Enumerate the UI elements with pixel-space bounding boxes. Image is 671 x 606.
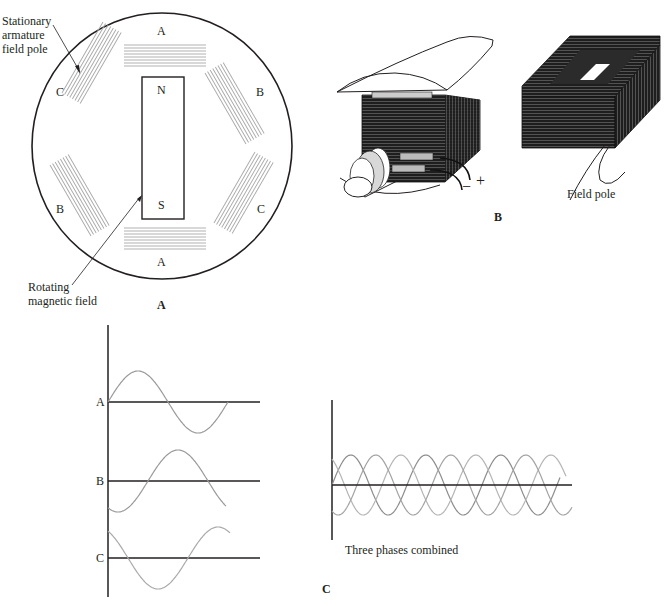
callout-stationary-pole: Stationary armature field pole: [2, 14, 51, 56]
coil-a-top: [124, 45, 206, 66]
combined-label: Three phases combined: [345, 544, 458, 557]
callout-line-2: magnetic field: [28, 294, 97, 308]
stator-diagram: [32, 13, 292, 285]
panel-caption-c: C: [322, 582, 331, 597]
callout-line-3: field pole: [2, 42, 51, 56]
pole-label-c-upper-left: C: [56, 86, 64, 99]
arrowhead-icon: [137, 195, 142, 202]
phase-label-c: C: [96, 552, 104, 565]
phase-waveforms: [108, 325, 260, 597]
pole-label-c-lower-right: C: [257, 203, 265, 216]
rotor-north-label: N: [157, 84, 166, 97]
pole-label-a-bottom: A: [157, 256, 166, 269]
minus-terminal: −: [462, 180, 471, 193]
motor-illustration: [337, 36, 660, 200]
stator-housing: [32, 13, 292, 279]
plus-terminal: +: [476, 174, 485, 187]
diagram-canvas: [0, 0, 671, 606]
coil-b-lower-left: [50, 154, 109, 236]
coil-a-bottom: [124, 228, 206, 249]
panel-caption-b: B: [494, 210, 502, 225]
pole-label-a-top: A: [157, 25, 166, 38]
field-pole-coils: [50, 22, 273, 249]
callout-line-2: armature: [2, 28, 51, 42]
phase-label-b: B: [96, 475, 104, 488]
field-pole-label: Field pole: [567, 188, 615, 201]
callout-line-1: Rotating: [28, 280, 97, 294]
rotor-south-label: S: [158, 199, 165, 212]
coil-c-lower-right: [214, 152, 273, 234]
callout-rotating-field: Rotating magnetic field: [28, 280, 97, 308]
field-pole-coil: [522, 36, 660, 200]
pole-label-b-upper-right: B: [256, 86, 264, 99]
callout-line-1: Stationary: [2, 14, 51, 28]
coil-b-upper-right: [205, 62, 264, 144]
combined-waveform: [332, 400, 572, 540]
callout-line-rotor: [72, 197, 140, 285]
pole-label-b-lower-left: B: [56, 203, 64, 216]
panel-caption-a: A: [157, 298, 166, 313]
phase-label-a: A: [96, 396, 105, 409]
callout-line-stator: [53, 25, 80, 72]
